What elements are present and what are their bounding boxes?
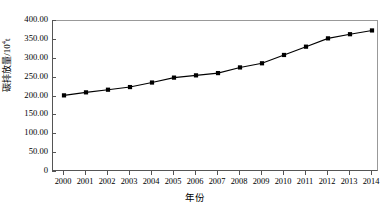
y-axis-title-exponent: 4 — [0, 41, 7, 44]
y-axis-tick-mark — [52, 133, 56, 134]
x-axis-tick-mark — [327, 171, 328, 175]
data-point-marker — [260, 61, 264, 65]
data-point-marker — [150, 80, 154, 84]
y-axis-tick-label: 350.00 — [12, 34, 48, 43]
x-axis-tick-mark — [305, 171, 306, 175]
x-axis-title: 年份 — [0, 193, 389, 204]
x-axis-tick-mark — [107, 171, 108, 175]
x-axis-tick-mark — [283, 171, 284, 175]
y-axis-tick-label: 250.00 — [12, 72, 48, 81]
x-axis-tick-mark — [151, 171, 152, 175]
data-series-svg — [53, 21, 379, 172]
x-axis-tick-mark — [129, 171, 130, 175]
data-point-marker — [194, 73, 198, 77]
data-point-marker — [304, 45, 308, 49]
y-axis-tick-mark — [52, 20, 56, 21]
y-axis-tick-mark — [52, 114, 56, 115]
x-axis-tick-mark — [239, 171, 240, 175]
x-axis-tick-mark — [63, 171, 64, 175]
series-markers — [62, 28, 374, 97]
x-axis-tick-mark — [371, 171, 372, 175]
y-axis-tick-mark — [52, 171, 56, 172]
carbon-emission-line-chart: 碳排放量/104t 050.00100.00150.00200.00250.00… — [0, 0, 389, 215]
y-axis-tick-label: 150.00 — [12, 109, 48, 118]
data-point-marker — [106, 88, 110, 92]
series-line — [64, 30, 372, 95]
data-point-marker — [326, 36, 330, 40]
y-axis-tick-label: 100.00 — [12, 128, 48, 137]
x-axis-tick-mark — [85, 171, 86, 175]
data-point-marker — [348, 32, 352, 36]
plot-area — [52, 20, 378, 171]
data-point-marker — [128, 85, 132, 89]
y-axis-tick-mark — [52, 39, 56, 40]
x-axis-tick-mark — [349, 171, 350, 175]
x-axis-tick-mark — [195, 171, 196, 175]
data-point-marker — [172, 76, 176, 80]
y-axis-tick-label: 300.00 — [12, 53, 48, 62]
data-point-marker — [238, 65, 242, 69]
data-point-marker — [62, 93, 66, 97]
x-axis-tick-mark — [217, 171, 218, 175]
x-axis-tick-label: 2014 — [351, 177, 389, 186]
y-axis-tick-mark — [52, 96, 56, 97]
y-axis-tick-mark — [52, 77, 56, 78]
y-axis-tick-label: 0 — [12, 166, 48, 175]
y-axis-tick-label: 400.00 — [12, 15, 48, 24]
data-point-marker — [370, 28, 374, 32]
data-point-marker — [282, 53, 286, 57]
data-point-marker — [84, 90, 88, 94]
y-axis-tick-mark — [52, 58, 56, 59]
x-axis-tick-mark — [261, 171, 262, 175]
x-axis-tick-mark — [173, 171, 174, 175]
y-axis-tick-mark — [52, 152, 56, 153]
y-axis-tick-label: 200.00 — [12, 91, 48, 100]
y-axis-tick-label: 50.00 — [12, 147, 48, 156]
data-point-marker — [216, 71, 220, 75]
